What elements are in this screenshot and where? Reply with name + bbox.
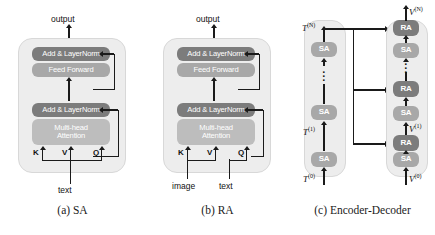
residual-top-arrowhead-b: [244, 51, 248, 57]
decoder-mid-sup: (1): [415, 123, 422, 129]
text-stem-b: [229, 159, 230, 179]
cross-bus-vertical: [353, 28, 354, 144]
image-input-label-b: image: [172, 181, 195, 191]
encoder-mid-sup: (1): [308, 126, 315, 132]
encoder-arrowhead-2-3: [321, 58, 327, 62]
decoder-arrowhead-dots-sa3: [403, 58, 409, 62]
decoder-output-label: V(N): [409, 6, 423, 17]
decoder-sa-block-3: SA: [393, 43, 419, 58]
residual-bottom-arrowhead-b: [244, 107, 248, 113]
residual-bottom-arrowhead-a: [99, 107, 103, 113]
image-bus-b: [187, 160, 216, 161]
decoder-input-arrowhead: [403, 167, 409, 171]
cross-branch-3: [353, 143, 387, 144]
block-feed-forward-b: Feed Forward: [177, 63, 255, 77]
residual-top-in-a: [102, 53, 114, 54]
cross-branch-2: [353, 89, 387, 90]
q-line-a: [101, 149, 102, 160]
residual-top-in-b: [247, 53, 259, 54]
block-multihead-attention-a: Multi-head Attention: [32, 119, 110, 145]
residual-bottom-vert-b: [263, 110, 264, 157]
decoder-ra-block-3: RA: [393, 20, 419, 36]
encoder-input-label: T(0): [303, 173, 315, 184]
attn-to-ff-line-b: [213, 79, 214, 101]
encoder-input-sup: (0): [308, 173, 315, 179]
panel-sa: output Add & LayerNorm Feed Forward Add …: [0, 0, 145, 235]
encoder-line-1-2: [323, 123, 324, 151]
encoder-mid-label: T(1): [303, 126, 315, 137]
attn-to-ff-arrowhead-b: [211, 77, 217, 81]
text-stem-a: [70, 159, 71, 184]
residual-top-horiz-b: [238, 89, 260, 90]
v-label-b: V: [207, 148, 212, 157]
text-bus-b: [229, 160, 247, 161]
caption-b: (b) RA: [145, 204, 290, 216]
encoder-output-line: [323, 28, 324, 42]
q-arrowhead-b: [244, 146, 250, 150]
residual-top-horiz-a: [93, 89, 115, 90]
output-label-b: output: [196, 14, 220, 24]
block-multihead-attention-b: Multi-head Attention: [177, 119, 255, 145]
decoder-arrowhead-sa3-ra3: [403, 35, 409, 39]
decoder-input-sup: (0): [415, 173, 422, 179]
decoder-ra-block-1: RA: [393, 135, 419, 151]
encoder-input-arrowhead: [321, 167, 327, 171]
residual-bottom-vert-a: [118, 110, 119, 157]
caption-a: (a) SA: [0, 204, 145, 216]
panel-ra: output Add & LayerNorm Feed Forward Add …: [145, 0, 290, 235]
attn-to-ff-arrowhead-a: [66, 77, 72, 81]
output-arrowhead-b: [211, 24, 217, 28]
text-input-label-a: text: [58, 185, 72, 195]
decoder-arrowhead-sa2-ra2: [403, 97, 409, 101]
q-line-b: [246, 149, 247, 160]
residual-top-arrowhead-a: [99, 51, 103, 57]
encoder-sa-block-3: SA: [311, 42, 337, 57]
image-stem-b: [187, 159, 188, 179]
decoder-output-line: [405, 7, 406, 21]
block-feed-forward-a: Feed Forward: [32, 63, 110, 77]
v-label-a: V: [62, 148, 67, 157]
cross-branch-1: [353, 28, 387, 29]
encoder-sa-block-1: SA: [311, 152, 337, 167]
decoder-arrowhead-sa1-ra1: [403, 150, 409, 154]
encoder-line-2-3-lower: [323, 84, 324, 104]
k-label-b: K: [178, 148, 184, 157]
k-line-a: [42, 149, 43, 160]
encoder-sa-block-2: SA: [311, 105, 337, 120]
residual-top-vert-a: [114, 54, 115, 90]
encoder-ellipsis: ···: [317, 70, 331, 82]
k-label-a: K: [33, 148, 39, 157]
output-label-a: output: [51, 14, 75, 24]
decoder-sa-block-1: SA: [393, 152, 419, 167]
output-arrowhead-a: [66, 24, 72, 28]
decoder-input-label: V(0): [409, 173, 422, 184]
text-input-label-b: text: [219, 181, 233, 191]
text-bus-a: [42, 160, 102, 161]
v-line-b: [215, 149, 216, 160]
decoder-mid-label: V(1): [409, 123, 422, 134]
caption-c: (c) Encoder-Decoder: [290, 204, 435, 216]
residual-top-vert-b: [259, 54, 260, 90]
mha-line2-b: Attention: [202, 132, 230, 140]
panel-encoder-decoder: SA SA SA T(0) T(1) ··· T(N) SA RA SA RA …: [290, 0, 435, 235]
k-arrowhead-a: [40, 146, 46, 150]
q-arrowhead-a: [99, 146, 105, 150]
encoder-input-line: [323, 170, 324, 185]
residual-bottom-in-a: [102, 109, 118, 110]
v-arrowhead-b: [213, 146, 219, 150]
encoder-arrowhead-1-2: [321, 121, 327, 125]
decoder-input-line: [405, 170, 406, 185]
encoder-output-sup: (N): [307, 22, 315, 28]
decoder-ellipsis: ···: [399, 62, 413, 74]
encoder-output-label: T(N): [302, 22, 315, 33]
residual-bottom-in-b: [247, 109, 263, 110]
decoder-sa-block-2: SA: [393, 106, 419, 121]
mha-line2-a: Attention: [57, 132, 85, 140]
attn-to-ff-line-a: [68, 79, 69, 101]
decoder-output-sup: (N): [415, 6, 423, 12]
k-arrowhead-b: [185, 146, 191, 150]
v-arrowhead-a: [68, 146, 74, 150]
decoder-ra-block-2: RA: [393, 81, 419, 97]
